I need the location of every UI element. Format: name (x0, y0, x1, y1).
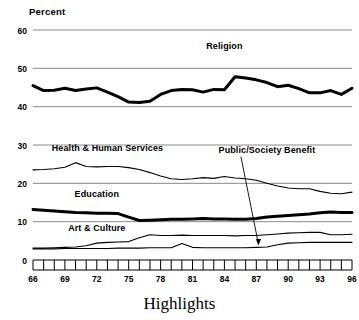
figure-title: Highlights (144, 294, 216, 313)
series-label-2: Education (75, 189, 119, 199)
y-tick-label-60: 60 (18, 26, 28, 36)
x-tick-label-72: 72 (92, 274, 102, 284)
series-label-4: Public/Society Benefit (219, 145, 316, 155)
y-axis-title: Percent (29, 6, 66, 17)
y-tick-label-0: 0 (22, 256, 27, 266)
chart-figure: 0102030405060 6669727578818487909396 Rel… (0, 0, 359, 320)
x-tick-label-69: 69 (60, 274, 70, 284)
chart-background (0, 0, 359, 320)
x-tick-label-75: 75 (124, 274, 134, 284)
x-tick-label-90: 90 (283, 274, 293, 284)
chart-canvas: 0102030405060 6669727578818487909396 Rel… (0, 0, 359, 320)
x-tick-label-96: 96 (347, 274, 357, 284)
x-tick-label-78: 78 (156, 274, 166, 284)
x-tick-label-87: 87 (252, 274, 262, 284)
x-tick-label-93: 93 (315, 274, 325, 284)
x-tick-label-84: 84 (220, 274, 230, 284)
y-tick-label-40: 40 (18, 102, 28, 112)
x-tick-label-81: 81 (188, 274, 198, 284)
series-label-0: Religion (206, 41, 242, 51)
y-tick-label-20: 20 (18, 179, 28, 189)
y-tick-label-30: 30 (18, 141, 28, 151)
y-tick-label-50: 50 (18, 64, 28, 74)
y-tick-label-10: 10 (18, 217, 28, 227)
series-label-1: Health & Human Services (52, 143, 163, 153)
series-label-3: Art & Culture (68, 223, 125, 233)
x-tick-label-66: 66 (28, 274, 38, 284)
